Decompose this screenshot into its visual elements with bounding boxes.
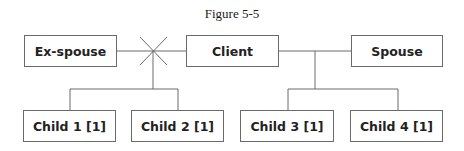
node-child-3: Child 3 [1] bbox=[240, 110, 334, 142]
node-child-4: Child 4 [1] bbox=[350, 110, 443, 142]
node-spouse: Spouse bbox=[351, 35, 443, 67]
node-ex-spouse: Ex-spouse bbox=[24, 35, 117, 67]
node-child-1: Child 1 [1] bbox=[23, 110, 116, 142]
node-client: Client bbox=[186, 35, 279, 67]
node-child-2: Child 2 [1] bbox=[131, 110, 224, 142]
